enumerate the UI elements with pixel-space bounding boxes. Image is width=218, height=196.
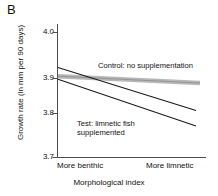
series-test-line-a xyxy=(58,68,196,111)
annotation-test-line2: supplemented xyxy=(77,129,125,138)
annotation-control: Control: no supplementation xyxy=(98,62,193,71)
x-tick-label-left: More benthic xyxy=(57,161,103,170)
x-axis-label: Morphological index xyxy=(0,178,218,187)
figure-panel-b: B Growth rate (ln mm per 90 days) 4.0 3.… xyxy=(0,0,218,196)
series-control-centerline xyxy=(58,76,200,83)
x-tick-label-right: More limnetic xyxy=(146,161,194,170)
